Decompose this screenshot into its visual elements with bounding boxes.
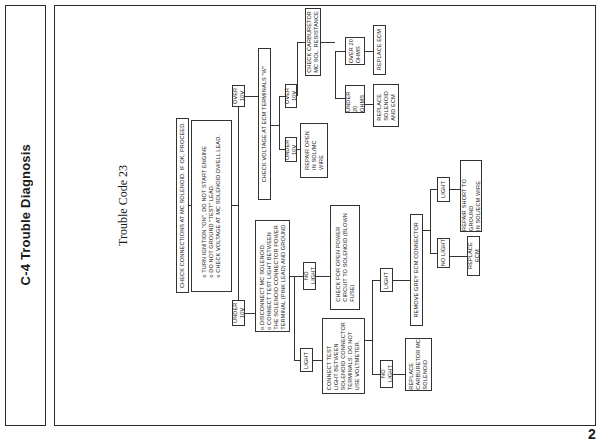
connector xyxy=(393,374,405,375)
node-light-1: LIGHT xyxy=(300,348,313,372)
connector xyxy=(238,107,239,300)
node-over-20-ohms: OVER 20 OHMS xyxy=(345,37,365,65)
node-no-light-3: NO LIGHT xyxy=(437,238,450,268)
node-instructions-ignition: o TURN IGNITION "ON", DO NOT START ENGIN… xyxy=(191,120,232,292)
connector xyxy=(316,276,330,277)
side-panel-title: C-4 Trouble Diagnosis xyxy=(5,5,45,425)
node-repair-open: REPAIR OPEN IN SOL/MC WIRE xyxy=(300,123,328,178)
connector xyxy=(430,189,431,253)
node-over-10v-1: OVER 10V xyxy=(232,85,245,107)
node-check-open-power: CHECK FOR OPEN POWER CIRCUIT TO SOLENOID… xyxy=(330,205,360,310)
connector xyxy=(372,374,380,375)
node-light-2: LIGHT xyxy=(380,268,393,292)
node-under-20-ohms: UNDER 20 OHMS xyxy=(345,85,365,113)
connector xyxy=(279,96,280,149)
connector xyxy=(365,104,373,105)
connector xyxy=(294,276,303,277)
node-replace-ecm-2: REPLACE ECM xyxy=(467,236,480,276)
connector xyxy=(245,313,255,314)
connector xyxy=(423,230,430,231)
connector xyxy=(320,42,335,43)
node-check-connections: CHECK CONNECTIONS AT MC SOLENOID. IF OK,… xyxy=(176,118,189,293)
node-replace-ecm-1: REPLACE ECM xyxy=(373,25,386,75)
connector xyxy=(430,253,437,254)
connector xyxy=(365,340,372,341)
node-under-10v-1: UNDER 10V xyxy=(232,300,245,326)
connector xyxy=(271,125,279,126)
connector xyxy=(393,280,410,281)
connector xyxy=(372,280,380,281)
diagram-title-text: Trouble Code 23 xyxy=(116,165,131,246)
node-no-light-2: NO LIGHT xyxy=(380,360,393,388)
node-over-10v-2: OVER 10V xyxy=(285,84,297,108)
connector xyxy=(365,51,373,52)
node-connect-test-light: CONNECT TEST LIGHT BETWEEN SOLENOID CONN… xyxy=(322,318,365,394)
connector xyxy=(313,360,322,361)
node-no-light-1: NO LIGHT xyxy=(303,262,316,290)
node-check-voltage-ecm: CHECK VOLTAGE AT ECM TERMINALS "W" xyxy=(258,48,271,200)
connector xyxy=(294,276,295,360)
node-instructions-disconnect: o DISCONNECT MC SOLENOID. o CONNECT TEST… xyxy=(255,220,290,332)
node-remove-grey-ecm: REMOVE GREY ECM CONNECTOR xyxy=(410,214,423,326)
node-repair-short: REPAIR SHORT TO GROUND IN SOL/ECM WIRE xyxy=(460,160,482,232)
node-replace-solenoid-ecm: REPLACE SOLENOID AND ECM xyxy=(373,84,399,127)
connector xyxy=(335,51,336,98)
connector xyxy=(430,189,437,190)
connector xyxy=(335,98,345,99)
connector xyxy=(297,42,305,43)
page-number: 2 xyxy=(588,426,596,439)
section-title: C-4 Trouble Diagnosis xyxy=(18,144,33,285)
node-light-3: LIGHT xyxy=(437,177,450,202)
connector xyxy=(335,51,345,52)
connector xyxy=(372,280,373,374)
connector xyxy=(450,256,467,257)
diagram-title: Trouble Code 23 xyxy=(113,150,133,260)
node-replace-carb-solenoid: REPLACE CARBURETOR MC SOLENOID xyxy=(405,338,432,391)
node-check-carb-resistance: CHECK CARBURETOR MC SOL. RESISTANCE xyxy=(305,8,321,76)
connector xyxy=(245,96,258,97)
node-under-10v-2: UNDER 10V xyxy=(285,137,297,162)
connector xyxy=(450,189,460,190)
